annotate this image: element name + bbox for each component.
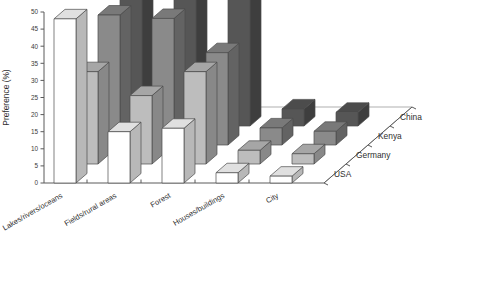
- series-label-germany: Germany: [356, 150, 391, 160]
- bar-front-face: [270, 176, 292, 183]
- bar-side-face: [206, 62, 217, 164]
- bar-side-face: [250, 0, 261, 126]
- bar-side-face: [76, 9, 87, 183]
- bar-front-face: [54, 19, 76, 183]
- category-label: Lakes/rivers/oceans: [1, 191, 64, 233]
- bar-side-face: [152, 86, 163, 164]
- category-labels: Lakes/rivers/oceansFields/rural areasFor…: [1, 190, 280, 232]
- chart-container: 05101520253035404550 Lakes/rivers/oceans…: [0, 0, 496, 289]
- bar-usa-2: [162, 119, 195, 183]
- bar-side-face: [184, 119, 195, 183]
- bar-usa-0: [54, 9, 87, 183]
- bar-front-face: [314, 131, 336, 145]
- bar-front-face: [216, 173, 238, 183]
- bar-front-face: [108, 132, 130, 183]
- category-label: City: [264, 191, 280, 205]
- y-tick-label: 15: [31, 128, 39, 135]
- y-tick-label: 20: [31, 111, 39, 118]
- bar-side-face: [130, 122, 141, 183]
- y-axis-title: Preference (%): [1, 69, 11, 126]
- bar-side-face: [98, 62, 109, 164]
- bar-front-face: [162, 128, 184, 183]
- y-tick-label: 45: [31, 25, 39, 32]
- y-tick-label: 0: [34, 179, 38, 186]
- series-label-china: China: [400, 112, 422, 122]
- category-label: Forest: [149, 190, 173, 209]
- bar-usa-1: [108, 122, 141, 183]
- y-axis: 05101520253035404550: [31, 8, 44, 186]
- y-tick-label: 50: [31, 8, 39, 15]
- y-tick-label: 30: [31, 77, 39, 84]
- series-label-kenya: Kenya: [378, 131, 402, 141]
- y-axis-title-text: Preference (%): [1, 69, 11, 126]
- category-label: Fields/rural areas: [63, 191, 118, 228]
- bar-front-face: [238, 150, 260, 164]
- category-label: Houses/buildings: [171, 191, 226, 228]
- y-tick-label: 10: [31, 145, 39, 152]
- bar-front-face: [292, 154, 314, 164]
- bar-side-face: [228, 43, 239, 145]
- y-tick-label: 40: [31, 43, 39, 50]
- bar-chart-3d: 05101520253035404550 Lakes/rivers/oceans…: [0, 0, 496, 289]
- y-tick-label: 25: [31, 94, 39, 101]
- bars-layer: [54, 0, 369, 183]
- series-label-usa: USA: [334, 169, 352, 179]
- y-tick-label: 35: [31, 60, 39, 67]
- y-tick-label: 5: [34, 162, 38, 169]
